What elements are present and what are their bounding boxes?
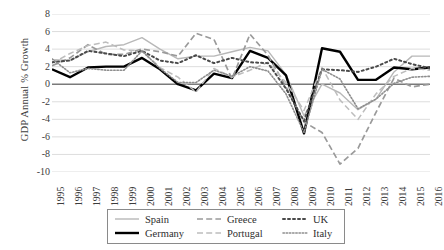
legend-swatch-germany-icon (114, 228, 140, 238)
x-tick-label: 1999 (128, 187, 138, 206)
x-tick-label: 2005 (236, 187, 246, 206)
legend-row: GermanyPortugalItaly (114, 226, 338, 240)
legend-item-portugal[interactable]: Portugal (196, 228, 282, 239)
x-tick-label: 2012 (362, 187, 372, 206)
x-tick-label: 2004 (218, 187, 228, 206)
legend-item-uk[interactable]: UK (282, 214, 338, 225)
y-tick-label: -2 (26, 97, 50, 107)
x-tick-label: 2010 (326, 187, 336, 206)
x-tick-label: 2013 (380, 187, 390, 206)
x-tick-label: 2003 (200, 187, 210, 206)
x-tick-label: 2001 (164, 187, 174, 206)
legend-item-greece[interactable]: Greece (196, 214, 282, 225)
plot-svg (52, 14, 430, 172)
x-tick-label: 2000 (146, 187, 156, 206)
legend-item-germany[interactable]: Germany (114, 228, 196, 239)
x-tick-label: 2007 (272, 187, 282, 206)
x-tick-label: 1998 (110, 187, 120, 206)
legend-swatch-uk-icon (282, 214, 308, 224)
y-tick-label: -8 (26, 149, 50, 159)
x-tick-label: 1997 (92, 187, 102, 206)
y-tick-label: 0 (26, 79, 50, 89)
x-tick-label: 1995 (56, 187, 66, 206)
y-tick-label: -6 (26, 132, 50, 142)
x-tick-label: 2014 (398, 187, 408, 206)
legend-item-spain[interactable]: Spain (114, 214, 196, 225)
x-axis-tick-labels: 1995199619971998199920002001200220032004… (52, 174, 430, 210)
x-tick-label: 2006 (254, 187, 264, 206)
legend-row: SpainGreeceUK (114, 212, 338, 226)
x-tick-label: 1996 (74, 187, 84, 206)
legend-label: Germany (145, 228, 184, 239)
y-tick-label: 4 (26, 44, 50, 54)
y-tick-label: 2 (26, 62, 50, 72)
legend-swatch-portugal-icon (196, 228, 222, 238)
legend-label: Greece (227, 214, 257, 225)
legend-label: Italy (313, 228, 332, 239)
y-tick-label: 6 (26, 27, 50, 37)
x-tick-label: 2011 (344, 187, 354, 206)
legend-label: UK (313, 214, 328, 225)
legend-item-italy[interactable]: Italy (282, 228, 338, 239)
plot-area (52, 14, 430, 172)
legend-swatch-spain-icon (114, 214, 140, 224)
legend-swatch-italy-icon (282, 228, 308, 238)
legend-swatch-greece-icon (196, 214, 222, 224)
chart-legend: SpainGreeceUKGermanyPortugalItaly (107, 209, 345, 244)
legend-label: Portugal (227, 228, 263, 239)
y-tick-label: 8 (26, 9, 50, 19)
series-line-uk (52, 51, 430, 121)
x-tick-label: 2016 (434, 187, 444, 206)
x-tick-label: 2002 (182, 187, 192, 206)
x-tick-label: 2009 (308, 187, 318, 206)
x-tick-label: 2015 (416, 187, 426, 206)
y-tick-label: -10 (26, 167, 50, 177)
y-tick-label: -4 (26, 114, 50, 124)
x-tick-label: 2008 (290, 187, 300, 206)
y-axis-tick-labels: 86420-2-4-6-8-10 (26, 14, 50, 172)
legend-label: Spain (145, 214, 169, 225)
series-line-greece (52, 33, 430, 164)
